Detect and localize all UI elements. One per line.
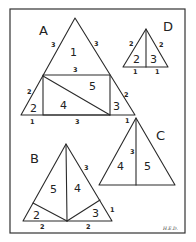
length-b-base-right: 2 xyxy=(86,223,91,231)
piece-b-2: 2 xyxy=(33,209,40,222)
piece-b-3: 3 xyxy=(92,207,99,220)
piece-c-4: 4 xyxy=(117,160,124,173)
label-c: C xyxy=(156,128,165,143)
piece-a-5: 5 xyxy=(89,80,96,93)
length-d-left: 2 xyxy=(129,40,134,48)
piece-c-5: 5 xyxy=(144,160,151,173)
dissection-diagram: A 1 5 4 2 3 3 3 3 2 2 1 3 1 D 2 3 2 2 1 … xyxy=(0,0,196,242)
piece-b-4: 4 xyxy=(74,182,81,195)
diagram-a: A 1 5 4 2 3 3 3 3 2 2 1 3 1 xyxy=(21,18,135,126)
diagram-d: D 2 3 2 2 1 1 xyxy=(123,19,173,76)
length-a-base-left: 1 xyxy=(30,118,35,126)
label-b: B xyxy=(30,151,39,166)
diagonal-a xyxy=(43,76,110,115)
length-b-right-lower: 1 xyxy=(110,206,115,214)
divider-b xyxy=(66,144,67,221)
length-a-left-upper: 3 xyxy=(51,41,56,49)
length-d-right: 2 xyxy=(159,41,164,49)
piece-d-3: 3 xyxy=(150,53,157,66)
diagram-b: B 5 4 2 3 3 1 2 2 xyxy=(23,144,115,231)
length-a-right-lower: 2 xyxy=(124,91,129,99)
length-b-base-left: 2 xyxy=(40,223,45,231)
length-d-base-left: 1 xyxy=(133,68,138,76)
length-a-left-lower: 2 xyxy=(27,88,32,96)
length-a-right-upper: 3 xyxy=(94,40,99,48)
length-a-base-right: 1 xyxy=(125,117,130,125)
piece-a-3: 3 xyxy=(113,100,120,113)
label-a: A xyxy=(39,23,48,38)
piece-b-5: 5 xyxy=(50,183,57,196)
length-a-base-mid: 3 xyxy=(75,118,80,126)
signature: H.E.D. xyxy=(162,226,179,231)
piece-d-2: 2 xyxy=(133,53,140,66)
piece-a-4: 4 xyxy=(60,99,67,112)
diagram-c: C 4 5 3 xyxy=(99,118,175,185)
length-d-base-right: 1 xyxy=(155,68,160,76)
label-d: D xyxy=(163,19,173,34)
length-a-rect-top: 3 xyxy=(73,66,78,74)
length-b-right-upper: 3 xyxy=(84,164,89,172)
piece-a-1: 1 xyxy=(70,46,77,59)
length-c-height: 3 xyxy=(130,148,135,156)
piece-a-2: 2 xyxy=(30,102,37,115)
